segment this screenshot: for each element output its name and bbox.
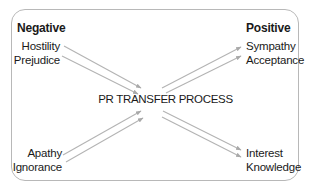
arrow-apathy-in	[63, 111, 141, 155]
positive-item-interest: Interest	[246, 146, 283, 160]
negative-item-apathy: Apathy	[27, 146, 62, 160]
negative-item-prejudice: Prejudice	[14, 53, 60, 67]
negative-item-ignorance: Ignorance	[13, 160, 62, 174]
positive-item-sympathy: Sympathy	[246, 39, 296, 53]
positive-item-acceptance: Acceptance	[246, 53, 304, 67]
arrow-acceptance-out	[166, 56, 241, 93]
negative-heading: Negative	[17, 21, 65, 35]
positive-heading: Positive	[246, 21, 290, 35]
process-title: PR TRANSFER PROCESS	[10, 93, 311, 105]
positive-item-knowledge: Knowledge	[246, 160, 301, 174]
arrow-hostility-in	[64, 46, 141, 88]
arrow-ignorance-in	[66, 118, 143, 162]
arrow-knowledge-out	[162, 117, 241, 157]
negative-item-hostility: Hostility	[22, 39, 60, 53]
arrow-interest-out	[163, 111, 241, 150]
arrow-sympathy-out	[162, 47, 241, 88]
arrow-prejudice-in	[62, 56, 138, 94]
